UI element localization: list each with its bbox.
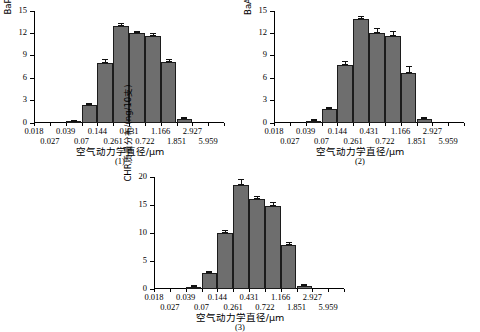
bar xyxy=(322,109,338,123)
error-bar-base xyxy=(150,35,156,36)
x-tick-labels-3: 0.0180.0390.1440.4311.1662.9270.0270.070… xyxy=(140,292,360,314)
bar xyxy=(281,245,297,289)
x-tick-label: 0.027 xyxy=(160,302,179,312)
y-axis-title-1: BaP质量分布/(ng/10支) xyxy=(2,0,14,23)
x-tick-label: 0.261 xyxy=(104,136,123,146)
bar xyxy=(337,65,353,123)
panel-tag-3: (3) xyxy=(120,323,360,332)
error-bar-base xyxy=(311,120,317,121)
bar xyxy=(202,273,218,289)
y-tick-label: 6 xyxy=(23,72,27,82)
figure-root: BaP质量分布/(ng/10支) 03691215 0.0180.0390.14… xyxy=(0,0,480,332)
panel-tag-1: (1) xyxy=(0,157,240,166)
x-tick-label: 0.261 xyxy=(224,302,243,312)
y-tick-0-4: 12 xyxy=(30,33,34,34)
x-tick-label: 2.927 xyxy=(303,292,322,302)
y-tick-label: 10 xyxy=(139,227,148,237)
y-tick-label: 9 xyxy=(263,49,267,59)
error-bar-base xyxy=(166,61,172,62)
y-tick-0-5: 15 xyxy=(30,11,34,12)
error-bar-cap xyxy=(358,16,364,17)
error-bar-base xyxy=(270,205,276,206)
error-bar-cap xyxy=(406,66,412,67)
error-bar-cap xyxy=(342,61,348,62)
y-axis-title-3: CHR质量分布/(ng/10支) xyxy=(122,77,134,189)
y-tick-2-4: 20 xyxy=(150,177,154,178)
y-tick-1-2: 6 xyxy=(270,78,274,79)
x-tick-label: 0.018 xyxy=(144,292,163,302)
y-tick-label: 5 xyxy=(143,255,147,265)
bar xyxy=(82,105,98,123)
bar xyxy=(385,36,401,123)
error-bar-base xyxy=(406,72,412,73)
error-bar-cap xyxy=(134,31,140,32)
error-bar-base xyxy=(374,32,380,33)
x-tick-label: 5.959 xyxy=(439,136,458,146)
y-tick-1-1: 3 xyxy=(270,100,274,101)
error-bar-base xyxy=(390,35,396,36)
error-bar-base xyxy=(421,118,427,119)
error-bar-base xyxy=(222,232,228,233)
bar xyxy=(249,199,265,289)
x-tick-label: 2.927 xyxy=(183,126,202,136)
error-bar-base xyxy=(71,121,77,122)
chart-panel-2: BaA质量分布/(ng/10支) 03691215 0.0180.0390.14… xyxy=(240,0,480,166)
y-tick-label: 15 xyxy=(139,199,148,209)
y-axis-title-wrap-1: BaP质量分布/(ng/10支) xyxy=(0,0,20,130)
y-tick-label: 3 xyxy=(23,94,27,104)
y-tick-label: 12 xyxy=(19,27,28,37)
bar xyxy=(177,119,193,123)
error-bar-cap xyxy=(254,196,260,197)
x-tick-label: 1.166 xyxy=(151,126,170,136)
x-tick-labels-2: 0.0180.0390.1440.4311.1662.9270.0270.070… xyxy=(260,126,480,148)
x-tick-label: 0.144 xyxy=(208,292,227,302)
bar xyxy=(353,19,369,123)
error-bar-cap xyxy=(118,23,124,24)
error-bar-base xyxy=(102,62,108,63)
y-axis-title-wrap-2: BaA质量分布/(ng/10支) xyxy=(240,0,260,130)
y-tick-label: 0 xyxy=(263,117,267,127)
bar xyxy=(401,73,417,123)
x-tick-label: 0.039 xyxy=(176,292,195,302)
x-tick-label: 0.07 xyxy=(314,136,329,146)
x-tick-label: 0.027 xyxy=(40,136,59,146)
y-tick-0-1: 3 xyxy=(30,100,34,101)
x-tick-label: 0.261 xyxy=(344,136,363,146)
x-tick-label: 1.166 xyxy=(391,126,410,136)
x-tick-label: 1.851 xyxy=(167,136,186,146)
x-tick-label: 5.959 xyxy=(319,302,338,312)
error-bar-base xyxy=(254,198,260,199)
x-tick-label: 0.144 xyxy=(88,126,107,136)
error-bar-cap xyxy=(102,59,108,60)
y-tick-label: 15 xyxy=(259,5,268,15)
bar xyxy=(306,121,322,123)
y-tick-2-2: 10 xyxy=(150,233,154,234)
x-tick-label: 0.722 xyxy=(255,302,274,312)
y-tick-0-2: 6 xyxy=(30,78,34,79)
x-tick-label: 0.018 xyxy=(264,126,283,136)
error-bar-cap xyxy=(150,33,156,34)
error-bar-cap xyxy=(390,31,396,32)
error-bar-base xyxy=(286,244,292,245)
bar xyxy=(369,33,385,123)
y-tick-2-3: 15 xyxy=(150,205,154,206)
y-tick-label: 20 xyxy=(139,171,148,181)
x-tick-label: 0.039 xyxy=(56,126,75,136)
x-tick-label: 0.722 xyxy=(375,136,394,146)
plot-area-3: 05101520 xyxy=(154,177,344,289)
bar xyxy=(97,63,113,123)
chart-panel-3: CHR质量分布/(ng/10支) 05101520 0.0180.0390.14… xyxy=(120,166,360,332)
y-tick-label: 6 xyxy=(263,72,267,82)
error-bar-base xyxy=(206,272,212,273)
x-tick-label: 0.431 xyxy=(359,126,378,136)
x-tick-label: 0.07 xyxy=(194,302,209,312)
bar xyxy=(217,233,233,289)
x-tick-label: 1.166 xyxy=(271,292,290,302)
error-bar-base xyxy=(134,32,140,33)
y-tick-1-3: 9 xyxy=(270,55,274,56)
x-tick-label: 1.851 xyxy=(407,136,426,146)
bar xyxy=(186,287,202,289)
bar xyxy=(417,119,433,123)
error-bar-base xyxy=(358,18,364,19)
bar xyxy=(161,62,177,123)
